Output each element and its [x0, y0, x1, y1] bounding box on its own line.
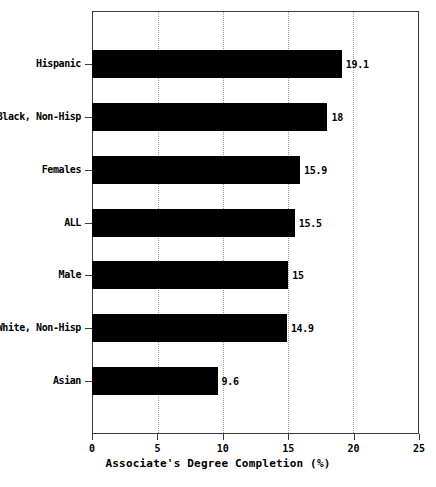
- x-tick: [354, 434, 355, 440]
- x-tick-label: 10: [217, 443, 229, 454]
- bar-row: 15.5: [92, 209, 419, 237]
- x-tick: [92, 434, 93, 440]
- bar-value-label: 15.9: [304, 164, 327, 175]
- category-label: ALL: [64, 209, 81, 237]
- bar-row: 18: [92, 103, 419, 131]
- bar-asian: [92, 367, 218, 395]
- category-label: Hispanic: [36, 50, 81, 78]
- bar-male: [92, 261, 288, 289]
- category-label: Asian: [53, 367, 81, 395]
- bar-row: 9.6: [92, 367, 419, 395]
- category-tick: [85, 223, 92, 224]
- bar-row: 15: [92, 261, 419, 289]
- category-axis: HispanicBlack, Non-HispFemalesALLMaleWhi…: [0, 11, 92, 434]
- bar-all: [92, 209, 295, 237]
- category-tick: [85, 117, 92, 118]
- bar-white-non-hisp: [92, 314, 287, 342]
- x-tick-label: 25: [413, 443, 425, 454]
- bar-value-label: 19.1: [346, 58, 369, 69]
- bar-row: 14.9: [92, 314, 419, 342]
- category-tick: [85, 64, 92, 65]
- category-label: White, Non-Hisp: [0, 314, 81, 342]
- bar-value-label: 18: [331, 111, 342, 122]
- x-tick-label: 5: [154, 443, 160, 454]
- category-label: Male: [59, 261, 81, 289]
- bar-row: 15.9: [92, 156, 419, 184]
- x-tick: [157, 434, 158, 440]
- category-tick: [85, 275, 92, 276]
- x-tick: [288, 434, 289, 440]
- bar-black-non-hisp: [92, 103, 327, 131]
- bars-layer: 19.11815.915.51514.99.6: [92, 11, 419, 434]
- x-tick: [419, 434, 420, 440]
- category-tick: [85, 170, 92, 171]
- bar-value-label: 15: [292, 270, 303, 281]
- bar-chart: HispanicBlack, Non-HispFemalesALLMaleWhi…: [0, 0, 436, 487]
- bar-females: [92, 156, 300, 184]
- x-tick-label: 0: [89, 443, 95, 454]
- x-tick: [223, 434, 224, 440]
- bar-value-label: 14.9: [291, 323, 314, 334]
- x-tick-label: 15: [282, 443, 294, 454]
- bar-value-label: 9.6: [222, 376, 239, 387]
- category-tick: [85, 381, 92, 382]
- x-tick-label: 20: [348, 443, 360, 454]
- category-label: Black, Non-Hisp: [0, 103, 81, 131]
- category-tick: [85, 328, 92, 329]
- bar-hispanic: [92, 50, 342, 78]
- x-axis-title: Associate's Degree Completion (%): [0, 457, 436, 470]
- bar-value-label: 15.5: [299, 217, 322, 228]
- category-label: Females: [42, 156, 81, 184]
- bar-row: 19.1: [92, 50, 419, 78]
